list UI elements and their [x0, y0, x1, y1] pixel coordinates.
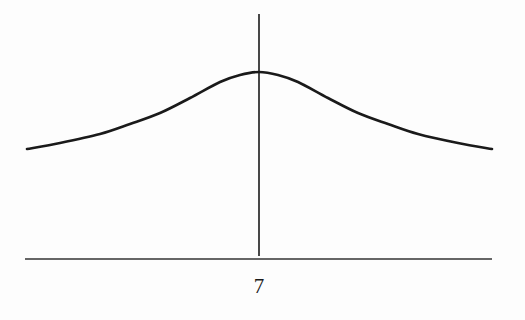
x-tick-label-center: 7 — [249, 276, 269, 297]
chart-canvas: 7 — [0, 0, 525, 320]
chart-plot — [0, 0, 525, 320]
